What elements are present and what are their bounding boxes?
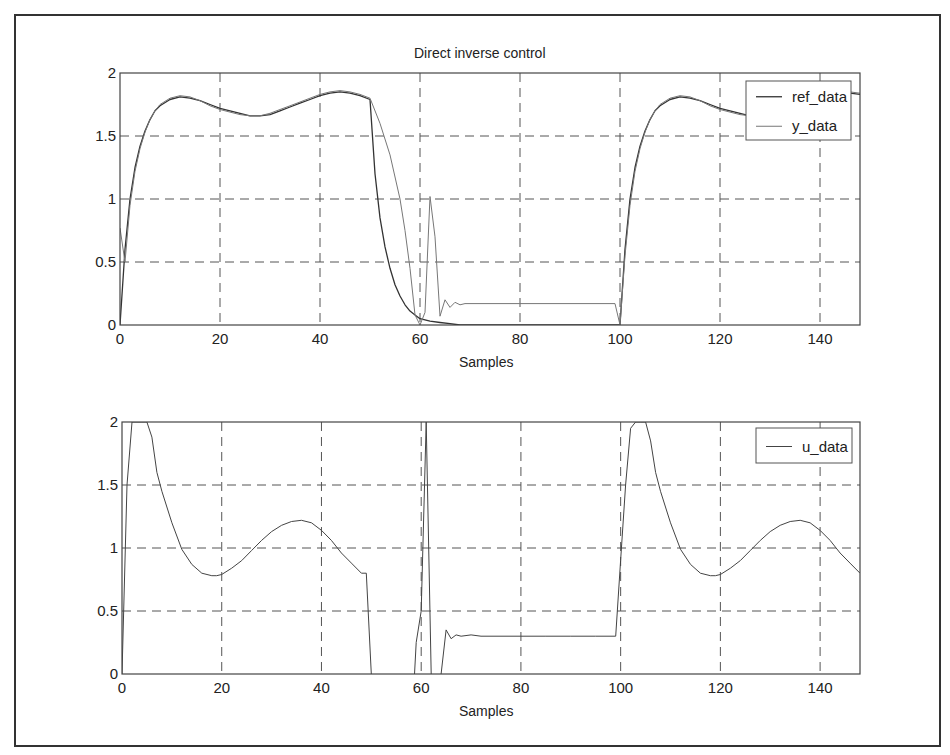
x-tick-label: 20	[213, 679, 230, 696]
legend: u_data	[756, 428, 852, 463]
x-tick-label: 100	[608, 679, 633, 696]
x-tick-label: 140	[808, 679, 833, 696]
series-u-data	[122, 422, 860, 737]
bottom-plot: 02040608010012014000.511.52u_data	[0, 0, 950, 755]
bottom-x-axis-label: Samples	[459, 703, 513, 719]
x-tick-label: 40	[313, 679, 330, 696]
x-tick-label: 0	[118, 679, 126, 696]
y-tick-label: 0	[110, 665, 118, 682]
top-x-axis-label: Samples	[459, 354, 513, 370]
legend-label: u_data	[802, 438, 849, 455]
y-tick-label: 1	[110, 539, 118, 556]
y-tick-label: 1.5	[97, 476, 118, 493]
x-tick-label: 80	[513, 679, 530, 696]
x-tick-label: 120	[708, 679, 733, 696]
x-tick-label: 60	[413, 679, 430, 696]
y-tick-label: 2	[110, 413, 118, 430]
y-tick-label: 0.5	[97, 602, 118, 619]
